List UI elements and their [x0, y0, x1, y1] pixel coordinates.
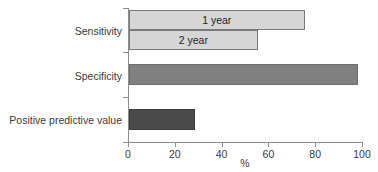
bar-sensitivity-2-year: 2 year	[129, 30, 258, 50]
x-axis-line	[128, 142, 362, 143]
x-axis-label-20: 20	[169, 148, 181, 160]
x-axis-label-0: 0	[125, 148, 131, 160]
x-axis-label-80: 80	[309, 148, 321, 160]
bar-label-1-year: 1 year	[202, 14, 231, 26]
x-axis-label-100: 100	[353, 148, 371, 160]
category-label-positive-predictive-value: Positive predictive value	[9, 114, 122, 126]
category-label-specificity-wrap: Specificity	[0, 70, 122, 82]
x-axis-title: %	[240, 157, 249, 169]
x-axis-tick-0	[128, 142, 129, 147]
x-axis-tick-100	[362, 142, 363, 147]
x-axis-tick-80	[315, 142, 316, 147]
bar-specificity	[129, 64, 358, 85]
category-label-sensitivity: Sensitivity	[75, 25, 122, 37]
x-axis-tick-20	[175, 142, 176, 147]
x-axis-label-60: 60	[263, 148, 275, 160]
y-axis-tick	[123, 8, 128, 9]
bar-sensitivity-1-year: 1 year	[129, 10, 305, 30]
bar-chart-figure: Sensitivity Specificity Positive predict…	[0, 0, 378, 172]
category-label-specificity: Specificity	[75, 70, 122, 82]
x-axis-tick-40	[222, 142, 223, 147]
x-axis-label-40: 40	[216, 148, 228, 160]
plot-area: 1 year 2 year 0 20 40 60 80 100	[128, 8, 362, 142]
y-axis-tick	[123, 97, 128, 98]
bar-label-2-year: 2 year	[179, 34, 208, 46]
category-label-sensitivity-wrap: Sensitivity	[0, 25, 122, 37]
bar-positive-predictive-value	[129, 109, 195, 130]
y-axis-tick	[123, 52, 128, 53]
category-label-ppv-wrap: Positive predictive value	[0, 114, 122, 126]
x-axis-tick-60	[268, 142, 269, 147]
